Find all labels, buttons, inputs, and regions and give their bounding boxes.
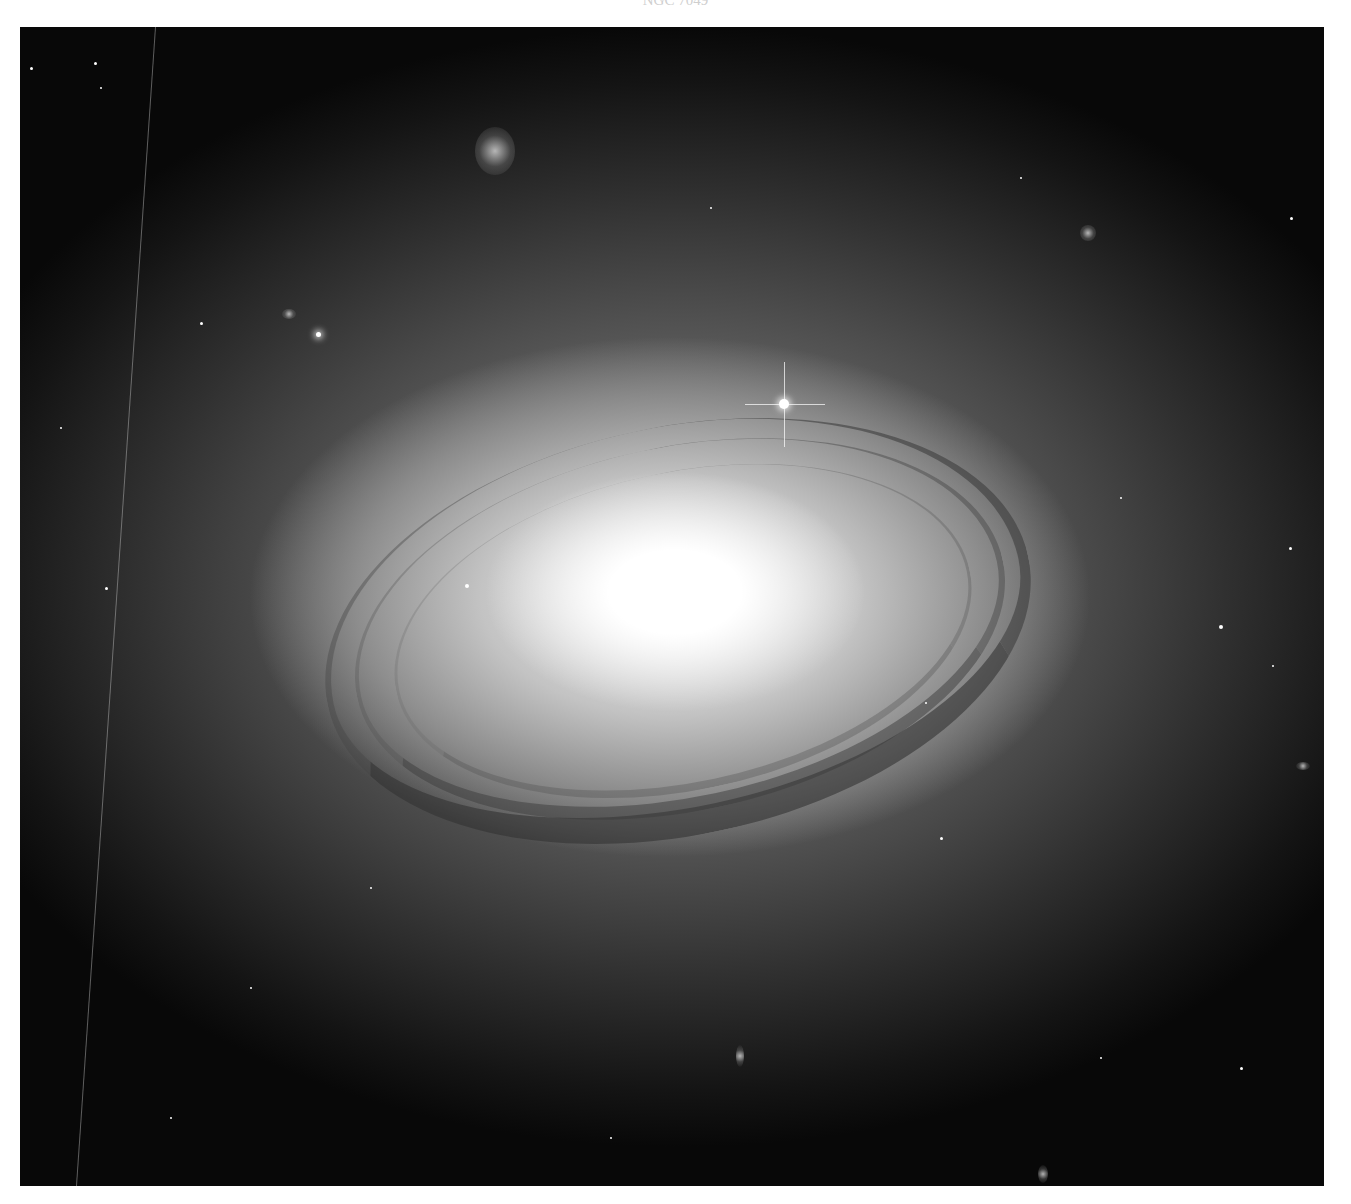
star bbox=[1219, 625, 1223, 629]
background-galaxy bbox=[1038, 1165, 1048, 1183]
star bbox=[105, 587, 108, 590]
star bbox=[170, 1117, 172, 1119]
star bbox=[250, 987, 252, 989]
star bbox=[465, 584, 469, 588]
star bbox=[1289, 547, 1292, 550]
background-galaxy bbox=[1080, 225, 1096, 241]
background-galaxy bbox=[475, 127, 515, 175]
background-galaxy bbox=[282, 309, 296, 319]
star bbox=[925, 702, 927, 704]
star bbox=[1120, 497, 1122, 499]
star bbox=[200, 322, 203, 325]
artifact-streak bbox=[76, 27, 156, 1186]
star bbox=[610, 1137, 612, 1139]
image-caption: NGC 7049 bbox=[0, 0, 1351, 10]
star bbox=[94, 62, 97, 65]
star bbox=[316, 332, 321, 337]
star bbox=[370, 887, 372, 889]
star bbox=[1100, 1057, 1102, 1059]
background-galaxy bbox=[736, 1045, 744, 1067]
star bbox=[1272, 665, 1274, 667]
galaxy-photo bbox=[20, 27, 1324, 1186]
star bbox=[1020, 177, 1022, 179]
star bbox=[710, 207, 712, 209]
background-galaxy bbox=[1296, 762, 1310, 770]
star bbox=[100, 87, 102, 89]
foreground-star bbox=[779, 399, 789, 409]
star bbox=[30, 67, 33, 70]
star bbox=[1240, 1067, 1243, 1070]
star bbox=[940, 837, 943, 840]
star bbox=[60, 427, 62, 429]
star bbox=[1290, 217, 1293, 220]
